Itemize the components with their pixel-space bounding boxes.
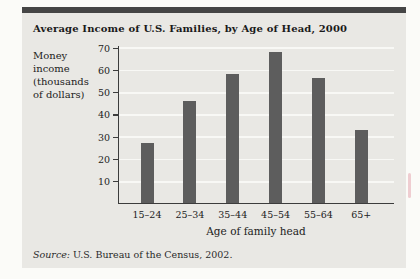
y-tick-mark-20 bbox=[113, 159, 118, 160]
chart-title: Average Income of U.S. Families, by Age … bbox=[33, 23, 347, 34]
y-tick-label-40: 40 bbox=[74, 108, 110, 121]
figure-panel: Average Income of U.S. Families, by Age … bbox=[22, 13, 406, 268]
y-tick-mark-50 bbox=[113, 92, 118, 93]
x-tick-label-1: 25–34 bbox=[175, 209, 204, 220]
x-tick-label-0: 15–24 bbox=[133, 209, 162, 220]
x-tick-label-2: 35–44 bbox=[218, 209, 247, 220]
y-tick-label-30: 30 bbox=[74, 131, 110, 144]
source-text: U.S. Bureau of the Census, 2002. bbox=[70, 249, 232, 260]
y-tick-label-60: 60 bbox=[74, 64, 110, 77]
gridline-20 bbox=[119, 159, 394, 161]
y-tick-mark-10 bbox=[113, 181, 118, 182]
gridline-60 bbox=[119, 70, 394, 72]
gridline-40 bbox=[119, 114, 394, 116]
x-tick-label-5: 65+ bbox=[351, 209, 371, 220]
scan-artifact bbox=[408, 173, 411, 198]
page: Average Income of U.S. Families, by Age … bbox=[0, 0, 420, 279]
y-tick-mark-40 bbox=[113, 114, 118, 115]
y-tick-mark-30 bbox=[113, 137, 118, 138]
x-axis-title: Age of family head bbox=[206, 225, 305, 237]
bar-5 bbox=[355, 130, 368, 203]
source-note: Source: U.S. Bureau of the Census, 2002. bbox=[33, 249, 232, 260]
x-axis-line bbox=[118, 203, 394, 204]
y-tick-label-70: 70 bbox=[74, 42, 110, 55]
y-tick-mark-70 bbox=[113, 48, 118, 49]
bar-1 bbox=[183, 101, 196, 203]
gridline-50 bbox=[119, 92, 394, 94]
bar-2 bbox=[226, 74, 239, 203]
y-tick-label-10: 10 bbox=[74, 175, 110, 188]
plot-area: Age of family head 15–2425–3435–4445–545… bbox=[118, 46, 394, 204]
gridline-30 bbox=[119, 136, 394, 138]
gridline-10 bbox=[119, 181, 394, 183]
x-tick-label-4: 55–64 bbox=[304, 209, 333, 220]
bar-3 bbox=[269, 52, 282, 203]
bar-4 bbox=[312, 78, 325, 203]
x-tick-label-3: 45–54 bbox=[261, 209, 290, 220]
bar-0 bbox=[141, 143, 154, 203]
source-prefix: Source: bbox=[33, 249, 70, 260]
y-tick-mark-60 bbox=[113, 70, 118, 71]
y-tick-label-50: 50 bbox=[74, 86, 110, 99]
gridline-70 bbox=[119, 47, 394, 49]
y-tick-label-20: 20 bbox=[74, 153, 110, 166]
